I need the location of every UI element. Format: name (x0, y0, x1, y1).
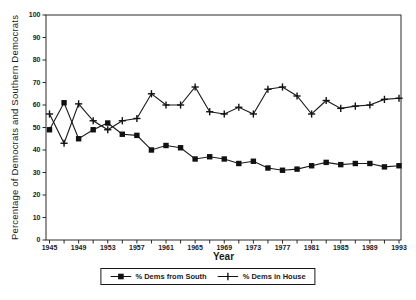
legend-item-dems-in-house: % Dems in House (218, 272, 306, 281)
square-marker (323, 160, 328, 165)
y-tick-label: 80 (33, 56, 41, 63)
square-marker (192, 156, 197, 161)
square-marker (222, 156, 227, 161)
y-tick-label: 60 (33, 101, 41, 108)
y-tick-label: 100 (29, 11, 41, 18)
y-tick-label: 90 (33, 34, 41, 41)
x-tick-label: 1993 (391, 244, 407, 251)
square-marker (90, 127, 95, 132)
x-tick-label: 1957 (129, 244, 145, 251)
square-marker (396, 163, 401, 168)
legend: % Dems from South % Dems in House (100, 268, 315, 285)
square-marker (236, 161, 241, 166)
y-axis-title: Percentage of Democrats and Southern Dem… (10, 15, 21, 240)
y-tick-label: 50 (33, 124, 41, 131)
plus-series-marker-icon (218, 272, 239, 281)
y-tick-label: 70 (33, 79, 41, 86)
square-series-marker-icon (110, 272, 131, 281)
y-tick-label: 0 (37, 236, 41, 243)
x-tick-label: 1985 (333, 244, 349, 251)
line-chart-figure: 0102030405060708090100194519491953195719… (0, 0, 416, 300)
x-tick-label: 1949 (71, 244, 87, 251)
square-marker (338, 162, 343, 167)
square-marker (47, 127, 52, 132)
square-marker (294, 166, 299, 171)
square-marker (120, 132, 125, 137)
legend-label-dems-from-south: % Dems from South (135, 272, 206, 281)
y-tick-label: 20 (33, 191, 41, 198)
y-tick-label: 10 (33, 214, 41, 221)
square-marker (149, 147, 154, 152)
y-tick-label: 30 (33, 169, 41, 176)
x-tick-label: 1989 (362, 244, 378, 251)
square-marker (61, 100, 66, 105)
x-tick-label: 1981 (304, 244, 320, 251)
x-tick-label: 1977 (275, 244, 291, 251)
x-axis-title: Year (46, 251, 401, 262)
square-marker (207, 154, 212, 159)
x-tick-label: 1961 (158, 244, 174, 251)
square-marker (134, 133, 139, 138)
legend-item-dems-from-south: % Dems from South (110, 272, 206, 281)
square-marker (251, 159, 256, 164)
square-marker (280, 168, 285, 173)
square-marker (178, 145, 183, 150)
square-marker (265, 165, 270, 170)
square-marker (163, 143, 168, 148)
x-tick-label: 1969 (216, 244, 232, 251)
x-tick-label: 1965 (187, 244, 203, 251)
square-marker (309, 163, 314, 168)
x-tick-label: 1953 (100, 244, 116, 251)
legend-label-dems-in-house: % Dems in House (243, 272, 306, 281)
x-tick-label: 1973 (246, 244, 262, 251)
square-marker (353, 161, 358, 166)
square-marker (105, 120, 110, 125)
y-axis-title-wrap: Percentage of Democrats and Southern Dem… (3, 15, 27, 240)
y-tick-label: 40 (33, 146, 41, 153)
x-tick-label: 1945 (42, 244, 58, 251)
square-marker (76, 136, 81, 141)
square-marker (367, 161, 372, 166)
square-marker (382, 164, 387, 169)
